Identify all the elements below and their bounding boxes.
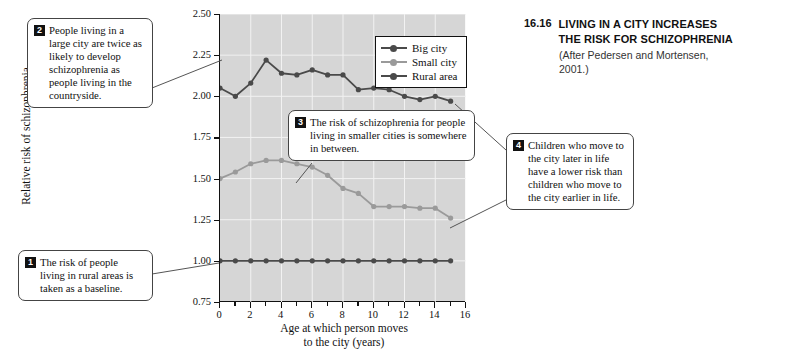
callout-3: 3 The risk of schizophrenia for people l… <box>288 110 475 161</box>
legend-label-big-city: Big city <box>412 42 447 54</box>
callout-2: 2 People living in a large city are twic… <box>27 18 153 108</box>
callout-1-text: The risk of people living in rural areas… <box>40 256 145 295</box>
callout-3-text: The risk of schizophrenia for people liv… <box>310 116 467 155</box>
figure-root: Relative risk of schizophrenia Age at wh… <box>0 0 789 363</box>
legend-label-rural-area: Rural area <box>412 70 458 82</box>
callout-1-number: 1 <box>25 257 36 268</box>
legend-item-small-city: Small city <box>381 55 458 69</box>
legend-label-small-city: Small city <box>412 56 457 68</box>
legend-item-rural-area: Rural area <box>381 69 458 83</box>
callout-4-text: Children who move to the city later in l… <box>528 139 626 204</box>
legend-swatch-small-city <box>381 57 407 67</box>
legend: Big city Small city Rural area <box>375 36 467 88</box>
legend-swatch-rural-area <box>381 71 407 81</box>
callout-4: 4 Children who move to the city later in… <box>506 133 634 210</box>
callout-1: 1 The risk of people living in rural are… <box>18 250 153 301</box>
callout-4-number: 4 <box>513 140 524 151</box>
callout-3-number: 3 <box>295 117 306 128</box>
callout-2-text: People living in a large city are twice … <box>49 24 145 102</box>
legend-swatch-big-city <box>381 43 407 53</box>
callout-2-number: 2 <box>34 25 45 36</box>
legend-item-big-city: Big city <box>381 41 458 55</box>
